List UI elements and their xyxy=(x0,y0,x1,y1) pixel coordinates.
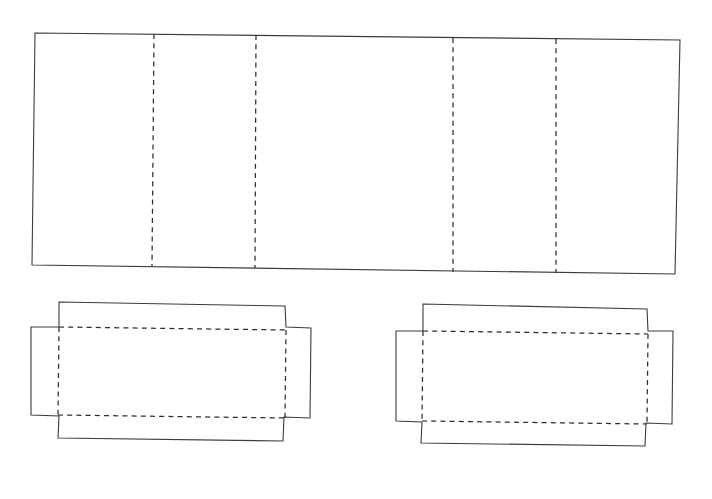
right-tray-blank-fill xyxy=(396,304,673,446)
dieline-drawing-canvas xyxy=(0,0,712,499)
left-tray-blank-group xyxy=(31,302,311,441)
body-strip-group xyxy=(32,33,680,274)
right-tray-blank-group xyxy=(396,304,673,446)
left-tray-blank-fill xyxy=(31,302,311,441)
body-strip-fill xyxy=(32,33,680,274)
dieline-vector-surface xyxy=(0,0,712,499)
